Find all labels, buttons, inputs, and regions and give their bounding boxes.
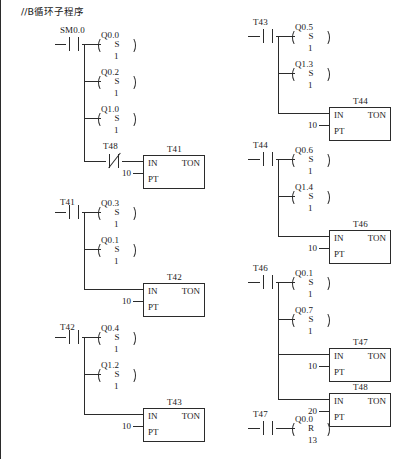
coil-count-q00-reset: 13: [308, 435, 317, 445]
pt-wire: [133, 301, 143, 302]
timer-label-t47: T47: [353, 337, 368, 347]
coil-count-q05: 1: [308, 43, 313, 53]
coil-q02-set[interactable]: S: [98, 74, 136, 89]
contact-label-t44: T44: [253, 140, 268, 150]
coil-function: S: [98, 113, 136, 124]
contact-t43[interactable]: [260, 29, 276, 43]
coil-q13-set[interactable]: S: [292, 66, 330, 81]
pt-wire: [319, 411, 329, 412]
timer-in-label: IN: [334, 396, 344, 407]
rung-wire: [55, 44, 66, 45]
timer-label-t48: T48: [353, 382, 368, 392]
timer-pt-label: PT: [148, 302, 159, 313]
timer-box-t43[interactable]: IN TON PT: [143, 408, 205, 442]
timer-in-label: IN: [334, 233, 344, 244]
branch-trunk: [84, 212, 85, 289]
timer-box-t44[interactable]: IN TON PT: [329, 107, 391, 141]
branch-stub: [278, 236, 329, 237]
timer-mode-label: TON: [368, 233, 386, 244]
timer-mode-label: TON: [368, 110, 386, 121]
timer-mode-label: TON: [182, 158, 200, 169]
coil-count-q10: 1: [114, 125, 119, 135]
branch-stub: [278, 113, 329, 114]
contact-t46[interactable]: [260, 275, 276, 289]
contact-label-t47: T47: [253, 409, 268, 419]
contact-t42[interactable]: [66, 330, 82, 344]
coil-q03-set[interactable]: S: [98, 205, 136, 220]
contact-label-sm00: SM0.0: [60, 25, 85, 35]
coil-q06-set[interactable]: S: [292, 152, 330, 167]
branch-trunk: [278, 282, 279, 399]
branch-trunk: [84, 44, 85, 161]
timer-box-t46[interactable]: IN TON PT: [329, 230, 391, 264]
pt-wire: [133, 426, 143, 427]
timer-pt-value-t42: 10: [122, 296, 131, 306]
pt-wire: [319, 248, 329, 249]
coil-q05-set[interactable]: S: [292, 29, 330, 44]
contact-label-t43: T43: [253, 17, 268, 27]
coil-q00-set[interactable]: S: [98, 37, 136, 52]
timer-in-label: IN: [148, 286, 158, 297]
rung-wire: [248, 428, 260, 429]
rung-wire: [248, 36, 260, 37]
coil-function: S: [98, 39, 136, 50]
contact-sm00[interactable]: [66, 37, 82, 51]
timer-mode-label: TON: [368, 396, 386, 407]
coil-function: R: [292, 423, 330, 434]
branch-stub: [278, 354, 329, 355]
coil-q12-set[interactable]: S: [98, 367, 136, 382]
coil-q01b-set[interactable]: S: [292, 275, 330, 290]
contact-t47[interactable]: [260, 421, 276, 435]
timer-in-label: IN: [148, 411, 158, 422]
coil-q00-reset[interactable]: R: [292, 421, 330, 436]
branch-stub: [84, 414, 143, 415]
timer-pt-value-t46: 10: [308, 243, 317, 253]
coil-q14-set[interactable]: S: [292, 189, 330, 204]
timer-in-label: IN: [148, 158, 158, 169]
program-title: //B循环子程序: [21, 6, 84, 17]
coil-count-q00: 1: [114, 51, 119, 61]
timer-label-t43: T43: [167, 397, 182, 407]
timer-pt-value-t41: 10: [122, 168, 131, 178]
coil-function: S: [292, 68, 330, 79]
coil-count-q01: 1: [114, 256, 119, 266]
timer-pt-value-t44: 10: [308, 120, 317, 130]
coil-q01-set[interactable]: S: [98, 242, 136, 257]
branch-stub: [84, 161, 106, 162]
timer-box-t47[interactable]: IN TON PT: [329, 348, 391, 382]
timer-pt-label: PT: [334, 249, 345, 260]
timer-box-t42[interactable]: IN TON PT: [143, 283, 205, 317]
timer-label-t46: T46: [353, 219, 368, 229]
contact-t44[interactable]: [260, 152, 276, 166]
rung-wire: [55, 212, 66, 213]
coil-count-q12: 1: [114, 381, 119, 391]
timer-label-t41: T41: [167, 144, 182, 154]
coil-function: S: [98, 207, 136, 218]
coil-function: S: [98, 369, 136, 380]
rung-wire: [122, 161, 143, 162]
left-power-rail: [0, 0, 1, 406]
coil-count-q04: 1: [114, 344, 119, 354]
timer-in-label: IN: [334, 110, 344, 121]
rung-wire: [248, 282, 260, 283]
coil-q04-set[interactable]: S: [98, 330, 136, 345]
coil-count-q13: 1: [308, 80, 313, 90]
contact-t41[interactable]: [66, 205, 82, 219]
coil-count-q02: 1: [114, 88, 119, 98]
timer-box-t41[interactable]: IN TON PT: [143, 155, 205, 189]
coil-q07-set[interactable]: S: [292, 312, 330, 327]
coil-function: S: [292, 31, 330, 42]
pt-wire: [319, 366, 329, 367]
timer-pt-label: PT: [334, 367, 345, 378]
branch-stub: [84, 289, 143, 290]
ladder-diagram-canvas: //B循环子程序 SM0.0 Q0.0 S 1 Q0.2 S 1 Q1.0: [0, 0, 396, 459]
coil-q10-set[interactable]: S: [98, 111, 136, 126]
coil-count-q07: 1: [308, 326, 313, 336]
branch-trunk: [84, 337, 85, 414]
contact-t48-nc[interactable]: [106, 154, 122, 168]
timer-pt-label: PT: [148, 174, 159, 185]
coil-count-q03: 1: [114, 219, 119, 229]
timer-box-t48[interactable]: IN TON PT: [329, 393, 391, 427]
pt-wire: [133, 173, 143, 174]
branch-trunk: [278, 36, 279, 113]
